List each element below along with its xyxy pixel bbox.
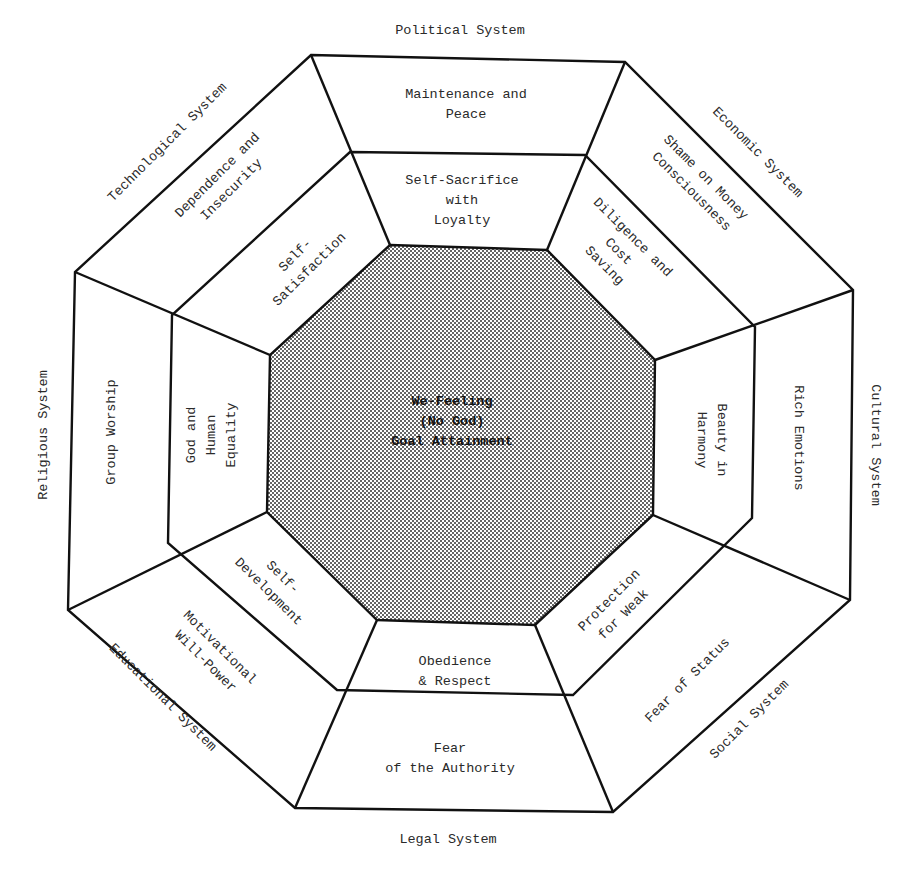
inner-cell-religious-3: Equality xyxy=(224,403,239,468)
segment-cultural: Cultural System Rich Emotions Beauty in … xyxy=(694,384,883,506)
outer-cell-political-1: Maintenance and xyxy=(405,87,527,102)
inner-cell-political-3: Loyalty xyxy=(434,213,491,228)
segment-technological: Technological System Dependence and Inse… xyxy=(105,80,349,309)
inner-cell-political-1: Self-Sacrifice xyxy=(405,173,518,188)
inner-cell-legal-2: & Respect xyxy=(419,674,492,689)
inner-cell-political-2: with xyxy=(446,193,478,208)
outer-cell-legal-2: of the Authority xyxy=(385,761,515,776)
center-line-3: Goal Attainment xyxy=(391,434,513,449)
system-label-legal: Legal System xyxy=(399,832,496,847)
inner-cell-cultural-1: Beauty in xyxy=(714,404,729,477)
system-label-cultural: Cultural System xyxy=(868,384,883,506)
inner-cell-cultural-2: Harmony xyxy=(694,412,709,469)
inner-cell-religious-2: Human xyxy=(204,415,219,456)
center-line-1: We-Feeling xyxy=(411,394,492,409)
segment-social: Social System Fear of Status Protection … xyxy=(576,567,792,762)
inner-cell-religious-1: God and xyxy=(184,407,199,464)
segment-legal: Legal System Fear of the Authority Obedi… xyxy=(385,654,515,847)
inner-cell-legal-1: Obedience xyxy=(419,654,492,669)
system-label-political: Political System xyxy=(395,23,525,38)
segment-political: Political System Maintenance and Peace S… xyxy=(395,23,527,228)
center-line-2: (No God) xyxy=(420,414,485,429)
outer-cell-religious-1: Group Worship xyxy=(104,379,119,484)
outer-cell-social-1: Fear of Status xyxy=(642,635,733,726)
outer-cell-cultural-1: Rich Emotions xyxy=(791,385,806,490)
outer-cell-legal-1: Fear xyxy=(434,741,466,756)
system-label-religious: Religious System xyxy=(36,370,51,500)
segment-religious: Religious System Group Worship God and H… xyxy=(36,370,239,500)
outer-cell-political-2: Peace xyxy=(446,107,487,122)
octagon-diagram: We-Feeling (No God) Goal Attainment Poli… xyxy=(0,0,918,874)
